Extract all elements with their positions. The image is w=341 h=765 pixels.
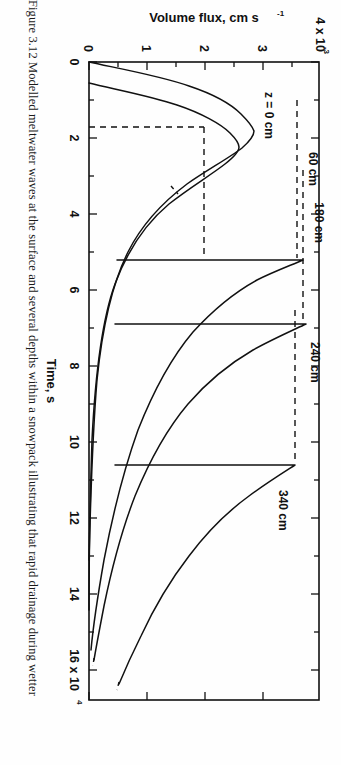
y-tick-label-1: 1 xyxy=(139,45,153,52)
volume-flux-plot: 0 2 4 6 8 10 12 14 16 x 10 4 Time, s xyxy=(41,0,341,765)
x-axis-exponent: 4 xyxy=(75,700,84,705)
rotated-figure-wrapper: 0 2 4 6 8 10 12 14 16 x 10 4 Time, s xyxy=(0,0,341,765)
curve-z0 xyxy=(89,62,254,560)
x-tick-labels: 0 2 4 6 8 10 12 14 16 x 10 4 xyxy=(67,59,84,705)
plot-frame xyxy=(89,62,319,700)
x-tick-label-10: 10 xyxy=(67,435,81,449)
curve-label-240cm: 240 cm xyxy=(308,342,322,383)
x-tick-label-16: 16 x 10 xyxy=(67,649,81,691)
curve-240cm-end-stub xyxy=(93,658,94,666)
x-tick-label-14: 14 xyxy=(67,587,81,601)
chart-figure: 0 2 4 6 8 10 12 14 16 x 10 4 Time, s xyxy=(41,0,341,765)
x-tick-label-12: 12 xyxy=(67,511,81,525)
y-tick-label-3: 3 xyxy=(255,45,269,52)
curve-label-60cm: 60 cm xyxy=(306,152,320,186)
x-tick-label-2: 2 xyxy=(67,135,81,142)
y-tick-label-2: 2 xyxy=(197,45,211,52)
x-tick-label-0: 0 xyxy=(67,59,81,66)
y-axis-title-exponent: -1 xyxy=(277,9,285,18)
curve-340cm-end-stub xyxy=(117,682,119,690)
curve-label-340cm: 340 cm xyxy=(276,490,290,531)
curve-240cm xyxy=(94,324,306,660)
y-axis-exponent: -3 xyxy=(322,47,331,55)
figure-page: 0 2 4 6 8 10 12 14 16 x 10 4 Time, s xyxy=(0,0,341,765)
curve-label-180cm: 180 cm xyxy=(312,202,326,243)
x-axis-title: Time, s xyxy=(44,359,59,404)
curve-label-z0: z = 0 cm xyxy=(262,92,276,139)
caption-line-1: Figure 3.12 Modelled meltwater waves at … xyxy=(24,0,41,765)
y-tick-label-0: 0 xyxy=(81,45,95,52)
curve-340cm xyxy=(115,465,295,684)
y-axis-ticks-right xyxy=(89,692,263,700)
x-tick-label-4: 4 xyxy=(67,211,81,218)
dashed-connectors xyxy=(89,100,303,463)
figure-caption: Figure 3.12 Modelled meltwater waves at … xyxy=(0,0,41,765)
x-tick-label-8: 8 xyxy=(67,363,81,370)
curve-180cm xyxy=(91,260,303,650)
y-axis-title: Volume flux, cm s xyxy=(149,10,259,25)
y-axis-title-group: Volume flux, cm s -1 xyxy=(149,9,284,25)
x-axis-ticks xyxy=(89,62,97,670)
curve-60cm xyxy=(89,83,239,610)
x-tick-label-6: 6 xyxy=(67,287,81,294)
curve-break-stub xyxy=(171,186,178,194)
